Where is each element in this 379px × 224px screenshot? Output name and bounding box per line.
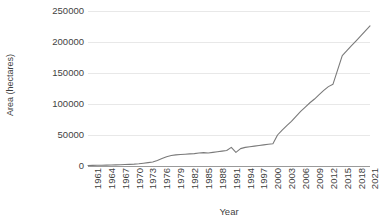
y-axis-title: Area (hectares)	[2, 0, 18, 170]
y-axis-title-text: Area (hectares)	[5, 54, 15, 116]
x-axis-title: Year	[88, 206, 370, 217]
x-axis-tick-label: 2009	[314, 168, 325, 189]
axis-baseline	[88, 166, 370, 167]
x-axis-tick-label: 2021	[369, 168, 379, 189]
plot-area	[88, 11, 370, 166]
y-axis-tick-label: 50000	[28, 130, 84, 140]
y-axis-tick-label: 0	[28, 161, 84, 171]
x-axis-tick-label: 2000	[272, 168, 283, 189]
x-axis-tick-label: 1961	[92, 168, 103, 189]
x-axis-tick-label: 1991	[231, 168, 242, 189]
y-axis-tick-label: 250000	[28, 6, 84, 16]
y-axis-tick-labels: 050000100000150000200000250000	[22, 0, 84, 175]
y-axis-tick-label: 150000	[28, 68, 84, 78]
y-axis-tick-label: 200000	[28, 37, 84, 47]
x-axis-tick-label: 1964	[106, 168, 117, 189]
x-axis-tick-label: 2015	[342, 168, 353, 189]
x-axis-tick-label: 1994	[245, 168, 256, 189]
x-axis-tick-labels: 1961196419671970197319761979198219851988…	[88, 168, 370, 206]
x-axis-tick-label: 2003	[286, 168, 297, 189]
x-axis-tick-label: 1985	[203, 168, 214, 189]
x-axis-tick-label: 2006	[300, 168, 311, 189]
x-axis-tick-label: 1967	[120, 168, 131, 189]
y-axis-tick-label: 100000	[28, 99, 84, 109]
data-series-line	[88, 11, 370, 166]
x-axis-tick-label: 1988	[217, 168, 228, 189]
x-axis-tick-label: 2012	[328, 168, 339, 189]
x-axis-tick-label: 1979	[175, 168, 186, 189]
x-axis-tick-label: 1982	[189, 168, 200, 189]
x-axis-tick-label: 1976	[161, 168, 172, 189]
line-chart: Area (hectares) 050000100000150000200000…	[0, 0, 379, 224]
x-axis-tick-label: 2018	[356, 168, 367, 189]
x-axis-tick-label: 1970	[134, 168, 145, 189]
x-axis-tick-label: 1997	[258, 168, 269, 189]
x-axis-tick-label: 1973	[147, 168, 158, 189]
